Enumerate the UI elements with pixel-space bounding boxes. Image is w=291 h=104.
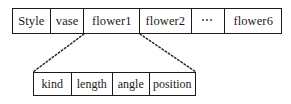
record-cell-vase-label: vase	[56, 15, 79, 28]
left-connector-line	[33, 34, 84, 72]
detail-cell-angle-label: angle	[118, 78, 144, 90]
style-record-table: Style vase flower1 flower2 ⋯ flower6	[12, 8, 282, 34]
record-cell-style[interactable]: Style	[13, 9, 51, 33]
detail-cell-position-label: position	[153, 78, 192, 90]
structure-diagram: Style vase flower1 flower2 ⋯ flower6 kin…	[0, 0, 291, 104]
record-cell-style-label: Style	[18, 15, 44, 28]
record-cell-vase[interactable]: vase	[51, 9, 85, 33]
detail-cell-position[interactable]: position	[150, 73, 195, 95]
record-cell-flower1-label: flower1	[92, 15, 132, 28]
ellipsis-icon: ⋯	[201, 14, 214, 26]
record-cell-ellipsis: ⋯	[192, 9, 226, 33]
flower-attributes-table: kind length angle position	[33, 72, 196, 96]
record-cell-flower1[interactable]: flower1	[84, 9, 140, 33]
detail-cell-kind-label: kind	[42, 78, 63, 90]
detail-cell-kind[interactable]: kind	[34, 73, 72, 95]
record-cell-flower6[interactable]: flower6	[225, 9, 281, 33]
record-cell-flower2-label: flower2	[146, 15, 186, 28]
detail-cell-length-label: length	[77, 78, 107, 90]
detail-cell-length[interactable]: length	[72, 73, 113, 95]
right-connector-line	[140, 34, 196, 72]
record-cell-flower6-label: flower6	[233, 15, 273, 28]
detail-cell-angle[interactable]: angle	[113, 73, 150, 95]
record-cell-flower2[interactable]: flower2	[140, 9, 192, 33]
